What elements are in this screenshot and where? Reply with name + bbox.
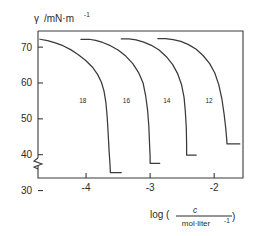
x-axis-label-denominator-exponent: -1 [224, 217, 230, 224]
y-axis-label-unit: /mN·m [44, 13, 74, 24]
y-tick-label-30: 30 [21, 185, 33, 196]
chart-svg: γ /mN·m -1 3040506070 -4-3-2 18161412 lo… [0, 0, 259, 236]
y-axis-ticks: 3040506070 [21, 42, 43, 196]
y-axis-label: γ /mN·m -1 [34, 11, 90, 24]
curve-group [40, 39, 240, 173]
y-axis-label-symbol: γ [34, 13, 39, 24]
curve-14 [121, 39, 196, 155]
y-tick-label-60: 60 [21, 77, 33, 88]
x-tick-label--3: -3 [146, 182, 155, 193]
plot-frame [34, 31, 243, 178]
curve-label-12: 12 [205, 97, 213, 104]
x-axis-label-denominator: mol·liter [182, 219, 211, 228]
x-tick-label--2: -2 [210, 182, 219, 193]
x-axis-ticks: -4-3-2 [82, 173, 219, 193]
x-axis-label-prefix: log ( [150, 209, 170, 220]
curve-18 [40, 39, 121, 172]
surface-tension-chart: γ /mN·m -1 3040506070 -4-3-2 18161412 lo… [0, 0, 259, 236]
curve-label-14: 14 [163, 97, 171, 104]
curve-label-18: 18 [79, 97, 87, 104]
y-tick-label-50: 50 [21, 113, 33, 124]
curve-12 [158, 39, 240, 144]
curve-label-16: 16 [123, 97, 131, 104]
y-tick-label-40: 40 [21, 149, 33, 160]
x-axis-label-numerator: c [193, 205, 198, 215]
x-axis-label: log ( c mol·liter -1 ) [150, 205, 235, 228]
curve-16 [81, 39, 160, 163]
y-tick-label-70: 70 [21, 42, 33, 53]
y-axis-label-exponent: -1 [84, 11, 90, 18]
x-tick-label--4: -4 [82, 182, 91, 193]
x-axis-label-suffix: ) [232, 211, 235, 222]
